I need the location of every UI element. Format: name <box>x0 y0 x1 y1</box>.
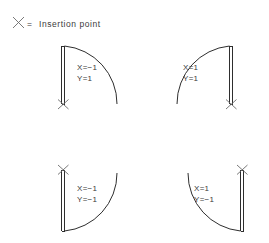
x-label-bottom-left: X=−1 <box>77 184 98 193</box>
door-panel-top-right <box>230 46 233 104</box>
y-label-top-left: Y=1 <box>77 74 93 83</box>
legend-equals: = <box>27 19 33 29</box>
insertion-point-marker-bottom-left <box>58 165 69 175</box>
door-top-left: X=−1 Y=1 <box>58 46 117 109</box>
y-label-bottom-right: Y=−1 <box>194 195 215 204</box>
door-panel-top-left <box>62 46 65 104</box>
door-panel-bottom-right <box>241 170 244 231</box>
x-label-top-right: X=1 <box>183 63 199 72</box>
y-label-bottom-left: Y=−1 <box>77 195 98 204</box>
x-label-bottom-right: X=1 <box>194 184 210 193</box>
insertion-point-marker-top-left <box>58 100 69 110</box>
x-label-top-left: X=−1 <box>77 63 98 72</box>
insertion-point-marker-bottom-right <box>237 165 248 175</box>
diagram-page: = Insertion point X=−1 Y=1 <box>0 0 269 243</box>
door-bottom-left: X=−1 Y=−1 <box>58 165 117 231</box>
insertion-point-marker-top-right <box>226 100 237 110</box>
y-label-top-right: Y=1 <box>183 74 199 83</box>
door-top-right: X=1 Y=1 <box>177 46 237 109</box>
x-mark-icon <box>13 17 24 28</box>
legend-label: Insertion point <box>39 19 101 29</box>
door-panel-bottom-left <box>62 170 65 231</box>
door-bottom-right: X=1 Y=−1 <box>188 165 248 231</box>
insertion-point-diagram: = Insertion point X=−1 Y=1 <box>0 0 269 243</box>
legend: = Insertion point <box>13 17 101 29</box>
